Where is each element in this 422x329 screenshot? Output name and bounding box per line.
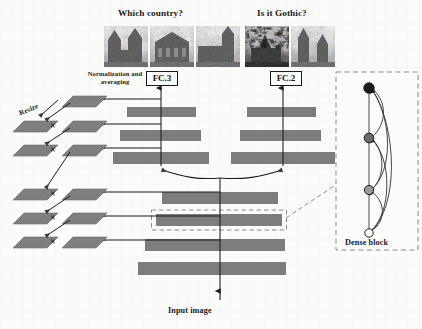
split-curve-to-gothic-branch [220,170,282,179]
cathedral-photo-2 [150,26,194,67]
fc-2-box[interactable]: FC.2 [270,71,302,86]
feature-row-4-right-map [62,189,107,200]
resize-arrow-3 [46,152,70,188]
dense-node-input [365,229,373,237]
feature-row-6-times-symbol: × [50,236,56,247]
feature-row-2-times-symbol: × [50,120,56,131]
dense-block-callout-line [286,186,334,218]
feature-row-6-right-map [62,237,107,248]
dense-node-1 [364,185,373,194]
cathedral-photo-3 [196,26,240,67]
gothic-photo-1 [245,26,289,67]
dense-block-label: Dense block [345,238,388,247]
architecture-figure: Which country? Is it Gothic? Normalizati… [0,0,422,329]
feature-row-3-times-symbol: × [50,144,56,155]
question-label-gothic: Is it Gothic? [257,8,307,18]
resize-arrow-1 [46,103,70,120]
trunk-bar-4 [138,262,286,275]
trunk-bar-3 [145,239,285,251]
feature-row-4-times-symbol: × [50,188,56,199]
gothic-photo-2 [291,26,335,67]
split-curve-to-country-branch [162,170,220,179]
normalization-label: Normalization and averaging [86,70,144,85]
cathedral-photo-1 [104,26,148,67]
gothic-branch-bar-1 [247,107,316,117]
question-label-country: Which country? [118,8,183,18]
dense-node-3 [364,83,374,93]
feature-row-5-right-map [62,213,107,224]
gothic-branch-bar-2 [240,130,321,141]
dense-node-2 [364,133,374,143]
feature-row-2-right-map [62,121,107,132]
input-image-label: Input image [168,306,212,315]
fc-3-box[interactable]: FC.3 [146,71,178,86]
feature-row-1-right-map [62,96,107,107]
feature-row-5-times-symbol: × [50,212,56,223]
